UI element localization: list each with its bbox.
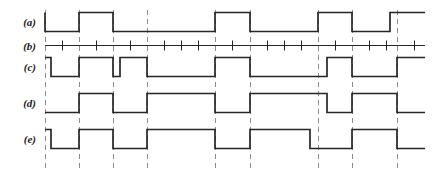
timing-diagram-canvas: (a)(b)(c)(d)(e) [0, 0, 444, 179]
timing-diagram-figure: (a)(b)(c)(d)(e) [0, 0, 444, 179]
trace-label-c: (c) [24, 61, 36, 74]
trace-label-b: (b) [23, 40, 36, 53]
trace-label-d: (d) [23, 97, 36, 110]
trace-label-e: (e) [24, 133, 36, 146]
trace-label-a: (a) [23, 16, 36, 29]
figure-background [0, 0, 444, 179]
